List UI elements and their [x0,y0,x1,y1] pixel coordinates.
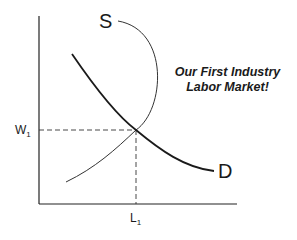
supply-curve [66,21,158,182]
labor-market-diagram: S D W1 L1 Our First Industry Labor Marke… [0,0,297,240]
wage-label: W1 [15,123,31,139]
demand-label: D [218,160,232,183]
diagram-title: Our First Industry Labor Market! [170,65,285,95]
supply-label: S [99,10,112,33]
labor-label: L1 [130,211,141,227]
diagram-graphics [0,0,297,240]
